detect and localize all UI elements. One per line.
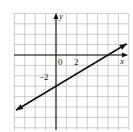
grid [14, 13, 129, 130]
y-tick-label-neg2: −2 [39, 72, 49, 82]
x-axis-label: x [119, 56, 124, 66]
coordinate-plane: 0 2 −2 x y [0, 0, 133, 132]
axes [14, 13, 128, 130]
x-tick-label-2: 2 [74, 57, 79, 67]
line-series [16, 44, 127, 110]
origin-label: 0 [58, 57, 63, 67]
plotted-line [16, 44, 127, 110]
y-axis-label: y [58, 11, 63, 21]
y-axis-arrow-icon [54, 13, 59, 19]
